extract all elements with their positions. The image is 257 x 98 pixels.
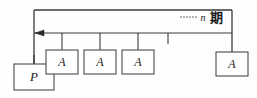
period-ellipsis-icon — [180, 16, 197, 18]
annuity-label-1: A — [57, 55, 66, 69]
present-value-label: P — [29, 69, 38, 84]
cash-flow-diagram: P A A A A n 期 — [0, 0, 257, 98]
annuity-label-4: A — [227, 57, 236, 71]
period-unit-label: 期 — [210, 10, 223, 25]
annuity-label-3: A — [133, 55, 142, 69]
timeline-arrow-head-icon — [35, 30, 44, 36]
diagram-canvas: P A A A A n 期 — [0, 0, 257, 98]
annuity-label-2: A — [95, 55, 104, 69]
period-variable-label: n — [201, 12, 206, 23]
